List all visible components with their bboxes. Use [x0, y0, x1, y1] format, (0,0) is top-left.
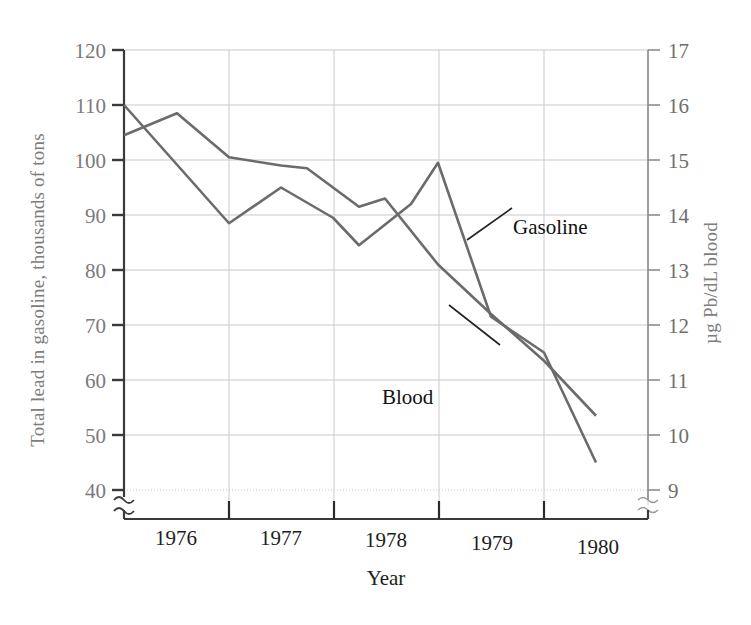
x-tick-label-1980: 1980: [577, 535, 619, 559]
left-axis: 120 110 100 90 80 70 60 50 40 Total lead…: [27, 39, 134, 514]
x-tick-label-1976: 1976: [155, 526, 197, 550]
blood-series-label: Blood: [382, 385, 434, 409]
y2-tick-label-17: 17: [668, 39, 689, 63]
y2-tick-label-11: 11: [668, 369, 688, 393]
blood-annotation: Blood: [382, 305, 500, 409]
y-tick-label-120: 120: [75, 39, 107, 63]
chart-canvas: 120 110 100 90 80 70 60 50 40 Total lead…: [0, 0, 751, 625]
gasoline-leader-line: [467, 208, 512, 240]
y2-tick-label-15: 15: [668, 149, 689, 173]
lead-in-gasoline-vs-blood-lead-line-chart: 120 110 100 90 80 70 60 50 40 Total lead…: [0, 0, 751, 625]
y-tick-label-110: 110: [75, 94, 106, 118]
gasoline-series-label: Gasoline: [513, 215, 588, 239]
series-line-blood: [124, 105, 596, 463]
y-tick-label-90: 90: [85, 204, 106, 228]
x-axis: 1976 1977 1978 1979 1980 Year: [124, 501, 648, 590]
horizontal-gridlines: [124, 50, 648, 490]
y-tick-label-50: 50: [85, 424, 106, 448]
series-line-gasoline: [124, 113, 596, 416]
y2-tick-label-14: 14: [668, 204, 690, 228]
y2-tick-label-12: 12: [668, 314, 689, 338]
y-tick-label-60: 60: [85, 369, 106, 393]
y2-tick-label-9: 9: [668, 479, 679, 503]
x-tick-label-1979: 1979: [471, 531, 513, 555]
left-axis-title: Total lead in gasoline, thousands of ton…: [27, 133, 48, 446]
y-tick-label-80: 80: [85, 259, 106, 283]
y-tick-label-40: 40: [85, 479, 106, 503]
y2-tick-label-16: 16: [668, 94, 689, 118]
right-axis: 17 16 15 14 13 12 11 10 9 µg Pb/dL blood: [638, 39, 721, 513]
gasoline-annotation: Gasoline: [467, 208, 588, 240]
x-tick-label-1978: 1978: [365, 528, 407, 552]
y2-tick-label-10: 10: [668, 424, 689, 448]
y-tick-label-70: 70: [85, 314, 106, 338]
y2-tick-label-13: 13: [668, 259, 689, 283]
y-tick-label-100: 100: [75, 149, 107, 173]
right-axis-title: µg Pb/dL blood: [700, 222, 721, 344]
x-tick-label-1977: 1977: [260, 526, 302, 550]
x-axis-title: Year: [367, 566, 406, 590]
